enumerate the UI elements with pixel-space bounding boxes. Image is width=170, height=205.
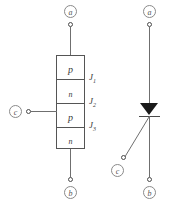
structure-terminal-c-badge: c [9,105,22,118]
symbol-terminal-b-badge: b [143,186,156,199]
symbol-terminal-b-node[interactable] [147,177,152,182]
structure-anode-lead [70,27,71,55]
structure-terminal-a-badge: a [64,5,77,18]
junction-3-index: 3 [93,126,96,132]
structure-cathode-lead [70,149,71,177]
symbol-cathode-wire [149,116,150,177]
symbol-terminal-c-badge: c [111,164,124,177]
symbol-terminal-a-badge: a [143,5,156,18]
pnpn-structure-figure: a p n p n [0,0,170,205]
layer-3-p: p [57,104,84,127]
symbol-terminal-c-node[interactable] [121,155,126,160]
symbol-anode-wire [149,27,150,103]
junction-1-index: 1 [93,78,96,84]
layer-4-n: n [57,128,84,150]
junction-label-1: J1 [89,72,96,84]
structure-gate-lead [31,111,57,112]
layer-2-label: n [69,90,73,99]
layer-1-label: p [68,64,73,75]
thyristor-triangle-icon [140,103,158,115]
layer-1-p: p [57,56,84,79]
layer-stack: p n p n [56,55,85,149]
junction-label-2: J2 [89,96,96,108]
layer-2-n: n [57,80,84,103]
junction-2-index: 2 [93,102,96,108]
gate-wire-segment [125,117,150,158]
layer-3-label: p [68,112,73,123]
junction-label-3: J3 [89,120,96,132]
layer-4-label: n [69,137,73,146]
structure-terminal-b-badge: b [64,186,77,199]
structure-terminal-b-node[interactable] [68,177,73,182]
